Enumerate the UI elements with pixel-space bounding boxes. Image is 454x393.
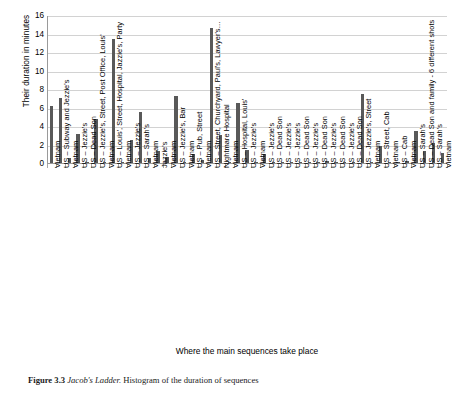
y-tick-label: 2 — [22, 141, 44, 149]
x-category-label: US – Jezzie's, Street, Post Office, Loui… — [99, 34, 106, 168]
y-tick-label: 4 — [22, 123, 44, 131]
x-category-label: US – Jezzie's — [330, 123, 337, 168]
x-category-label: US – Dead Son and family - 6 different s… — [428, 20, 435, 168]
x-category-label: US – Sarah's — [419, 124, 426, 168]
x-category-label: US – Jezzie's — [250, 123, 257, 168]
figure-container: Their duration in minutes 0246810121416 … — [0, 0, 454, 393]
x-category-label: Vietnam — [445, 141, 452, 168]
caption-text: Histogram of the duration of sequences — [123, 375, 258, 385]
x-category-label: Vietnam — [152, 141, 159, 168]
x-category-label: Vietnam — [188, 141, 195, 168]
x-category-label: Vietnam — [392, 141, 399, 168]
x-category-label: US – Hospital, Louis' — [241, 99, 248, 168]
x-category-label: US – Dead Son — [303, 116, 310, 168]
x-category-label: Vietnam — [54, 141, 61, 168]
x-category-label: US – Jezzie's — [81, 123, 88, 168]
x-category-label: US – Jezzie's, Bar — [179, 107, 186, 168]
x-category-label: US – Jezzie's — [134, 123, 141, 168]
y-axis-tick-labels: 0246810121416 — [22, 16, 44, 164]
y-tick-label: 8 — [22, 86, 44, 94]
x-category-label: US – Jezzie's, Street — [365, 99, 372, 168]
x-category-label: US – Street, Cab — [383, 111, 390, 168]
y-tick-label: 0 — [22, 160, 44, 168]
y-axis-line — [47, 16, 48, 164]
y-tick-label: 6 — [22, 104, 44, 112]
y-tick-label: 12 — [22, 49, 44, 57]
x-category-label: Vietnam — [410, 141, 417, 168]
x-category-label: US – Dead Son — [356, 116, 363, 168]
x-category-label: US – Jezzie's — [294, 123, 301, 168]
y-tick-label: 14 — [22, 30, 44, 38]
x-category-label: US – Jezzie's — [285, 123, 292, 168]
x-category-label: US – Dead Son — [276, 116, 283, 168]
x-category-label: US – Dead Son — [90, 116, 97, 168]
x-axis-title: Where the main sequences take place — [47, 346, 447, 356]
x-category-label: US – Jezzie's — [348, 123, 355, 168]
histogram-chart: Their duration in minutes 0246810121416 … — [0, 0, 454, 372]
x-category-label: Nightmare Hospital — [223, 104, 230, 168]
x-category-label: Vietnam — [125, 141, 132, 168]
x-category-label: US – Sarah's — [436, 124, 443, 168]
y-tick-label: 16 — [22, 12, 44, 20]
x-axis-category-labels: VietnamUS – Subway and Jezzie'sVietnamUS… — [47, 168, 447, 343]
x-category-label: US – Louis', Street, Hospital, Jazzie's,… — [116, 22, 123, 168]
figure-caption: Figure 3.3 Jacob's Ladder. Histogram of … — [28, 376, 432, 386]
x-category-label: US – Dead Son — [339, 116, 346, 168]
x-category-label: Vietnam — [108, 141, 115, 168]
x-category-label: US – Pub, Street — [196, 112, 203, 168]
x-category-label: Vietnam — [374, 141, 381, 168]
caption-title: Jacob's Ladder. — [67, 375, 121, 385]
x-category-label: US – Cab — [401, 136, 408, 168]
x-category-label: US – Dead Son — [321, 116, 328, 168]
x-category-label: Jazzie's — [161, 142, 168, 168]
x-category-label: Vietnam — [259, 141, 266, 168]
x-category-label: Vietnam — [72, 141, 79, 168]
x-category-label: US – Jezzie's — [268, 123, 275, 168]
x-category-label: Vietnam — [170, 141, 177, 168]
x-category-label: US – Subway and Jezzie's — [63, 80, 70, 168]
x-category-label: US – Street, Churchyard, Paul's, Lawyer'… — [214, 21, 221, 168]
x-category-label: Vietnam — [205, 141, 212, 168]
x-category-label: US – Jezzie's — [312, 123, 319, 168]
x-category-label: US – Sarah's — [143, 124, 150, 168]
x-category-label: Vietnam — [232, 141, 239, 168]
caption-label: Figure 3.3 — [28, 375, 65, 385]
y-tick-label: 10 — [22, 67, 44, 75]
